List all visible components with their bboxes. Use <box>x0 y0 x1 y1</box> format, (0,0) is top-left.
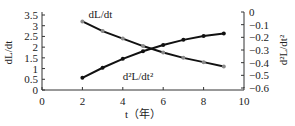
data-point <box>222 32 226 36</box>
x-tick-label: 2 <box>80 95 86 107</box>
y-axis-title: dL/dt <box>2 41 14 65</box>
y-right-tick-label: −0.5 <box>249 69 269 81</box>
data-point <box>101 66 105 70</box>
data-point <box>181 38 185 42</box>
x-tick-label: 6 <box>160 95 166 107</box>
x-tick-label: 8 <box>201 95 207 107</box>
labels-layer: 024681000.511.522.533.50−0.1−0.2−0.3−0.4… <box>2 6 289 120</box>
data-point <box>80 19 84 23</box>
x-axis-title: t（年） <box>125 107 161 120</box>
chart-canvas: 024681000.511.522.533.50−0.1−0.2−0.3−0.4… <box>0 0 295 126</box>
y-tick-label: 1.5 <box>24 52 38 64</box>
y-right-tick-label: −0.6 <box>249 82 269 94</box>
data-point <box>141 44 145 48</box>
y-tick-label: 0.5 <box>24 73 38 85</box>
y-tick-label: 1 <box>33 63 39 75</box>
data-point <box>161 43 165 47</box>
y-right-tick-label: −0.1 <box>249 19 269 31</box>
data-point <box>161 51 165 55</box>
x-tick-label: 0 <box>39 95 45 107</box>
y-tick-label: 2.5 <box>24 30 38 42</box>
data-point <box>222 64 226 68</box>
dual-axis-line-chart: 024681000.511.522.533.50−0.1−0.2−0.3−0.4… <box>0 0 295 126</box>
data-point <box>181 56 185 60</box>
y-tick-label: 3 <box>33 20 39 32</box>
x-tick-label: 10 <box>239 95 251 107</box>
series-line-dLdt <box>82 21 223 66</box>
data-point <box>101 29 105 33</box>
y-right-tick-label: 0 <box>249 6 255 18</box>
data-point <box>80 76 84 80</box>
y-right-tick-label: −0.3 <box>249 44 269 56</box>
series-annotation: d²L/dt² <box>123 70 154 82</box>
y-right-axis-title: d²L/dt² <box>277 34 289 65</box>
y-tick-label: 3.5 <box>24 9 38 21</box>
series-annotation: dL/dt <box>88 8 112 20</box>
data-point <box>121 57 125 61</box>
data-point <box>202 60 206 64</box>
y-right-tick-label: −0.4 <box>249 57 269 69</box>
data-point <box>202 34 206 38</box>
y-tick-label: 2 <box>33 41 39 53</box>
y-right-tick-label: −0.2 <box>249 31 269 43</box>
data-point <box>121 37 125 41</box>
y-tick-label: 0 <box>33 84 39 96</box>
data-point <box>141 49 145 53</box>
x-tick-label: 4 <box>120 95 126 107</box>
